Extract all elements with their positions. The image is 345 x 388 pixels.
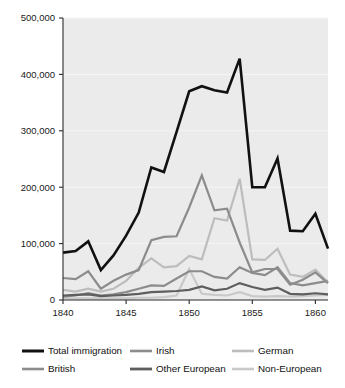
legend-label: Non-European bbox=[258, 363, 322, 374]
y-tick-label: 200,000 bbox=[21, 182, 55, 193]
plot-area bbox=[63, 18, 328, 300]
y-tick-label: 500,000 bbox=[21, 12, 55, 23]
legend-label: British bbox=[48, 363, 75, 374]
legend-label: German bbox=[258, 345, 293, 356]
y-tick-label: 0 bbox=[50, 294, 55, 305]
x-tick-label: 1855 bbox=[242, 307, 263, 318]
legend-label: Irish bbox=[156, 345, 175, 356]
legend-label: Total immigration bbox=[48, 345, 122, 356]
y-tick-label: 100,000 bbox=[21, 238, 55, 249]
immigration-line-chart: 0100,000200,000300,000400,000500,000 184… bbox=[0, 0, 345, 388]
x-tick-label: 1850 bbox=[179, 307, 200, 318]
x-tick-label: 1840 bbox=[52, 307, 73, 318]
x-tick-label: 1860 bbox=[305, 307, 326, 318]
y-tick-label: 400,000 bbox=[21, 69, 55, 80]
y-tick-label: 300,000 bbox=[21, 125, 55, 136]
legend-label: Other European bbox=[156, 363, 226, 374]
x-tick-label: 1845 bbox=[116, 307, 137, 318]
